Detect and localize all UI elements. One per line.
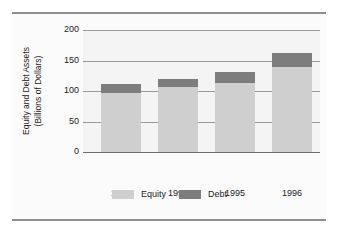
x-tick-label-1996: 1996 — [262, 188, 322, 198]
y-tick-label-150: 150 — [39, 55, 79, 65]
bar-segment-debt-1994[interactable] — [158, 79, 198, 88]
y-tick-label-100: 100 — [39, 85, 79, 95]
bar-1993[interactable] — [101, 84, 141, 152]
plot-area: 050100150200 1993199419951996 — [83, 30, 320, 152]
bar-segment-equity-1993[interactable] — [101, 93, 141, 152]
gridline-200 — [83, 30, 320, 31]
bottom-divider-rule — [12, 219, 326, 221]
legend-label-debt: Debt — [208, 189, 227, 199]
bar-segment-equity-1994[interactable] — [158, 87, 198, 152]
chart-figure: Equity and Debt Assets (Billions of Doll… — [0, 0, 338, 234]
bar-segment-equity-1995[interactable] — [215, 83, 255, 152]
bar-segment-debt-1996[interactable] — [272, 53, 312, 68]
legend-item-debt[interactable]: Debt — [179, 189, 227, 199]
x-axis-line — [83, 152, 320, 153]
bar-segment-debt-1995[interactable] — [215, 72, 255, 83]
y-axis-title-line-1: Equity and Debt Assets — [20, 30, 32, 152]
bar-1994[interactable] — [158, 79, 198, 152]
y-tick-label-0: 0 — [39, 146, 79, 156]
chart-legend: Equity Debt — [112, 189, 227, 199]
bar-1996[interactable] — [272, 53, 312, 152]
bar-segment-equity-1996[interactable] — [272, 67, 312, 152]
legend-label-equity: Equity — [141, 189, 166, 199]
legend-item-equity[interactable]: Equity — [112, 189, 166, 199]
y-tick-label-200: 200 — [39, 24, 79, 34]
legend-swatch-debt — [179, 190, 201, 199]
bar-segment-debt-1993[interactable] — [101, 84, 141, 93]
y-tick-label-50: 50 — [39, 116, 79, 126]
legend-swatch-equity — [112, 190, 134, 199]
bar-1995[interactable] — [215, 72, 255, 152]
